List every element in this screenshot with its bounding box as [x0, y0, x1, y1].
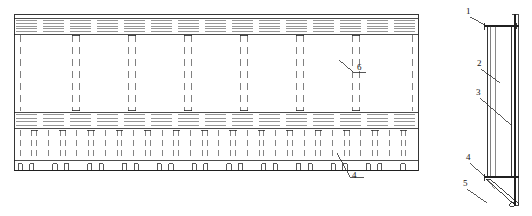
generated-geometry	[14, 14, 519, 207]
callout-labels: 1234564	[352, 6, 482, 188]
crenellation-tooth	[401, 164, 405, 171]
crenellation-tooth	[238, 164, 242, 171]
callout-label-3: 3	[476, 87, 481, 97]
crenellation-tooth	[99, 164, 103, 171]
crenellation-tooth	[227, 164, 231, 171]
crenellation-tooth	[169, 164, 173, 171]
callout-leader-3	[480, 98, 511, 125]
drawing-canvas: 1234564	[0, 0, 532, 216]
crenellation-tooth	[134, 164, 138, 171]
crenellation-tooth	[273, 164, 277, 171]
callout-label-5: 5	[463, 178, 468, 188]
callout-label-4b: 4	[352, 170, 357, 180]
crenellation-tooth	[204, 164, 208, 171]
crenellation-tooth	[30, 164, 34, 171]
elevation-outer-frame	[14, 14, 418, 170]
callout-leader-4b	[337, 153, 364, 177]
callout-label-2: 2	[477, 58, 482, 68]
crenellation-tooth	[308, 164, 312, 171]
crenellation-tooth	[88, 164, 92, 171]
crenellation-tooth	[64, 164, 68, 171]
callout-label-1: 1	[466, 6, 471, 16]
callout-label-4: 4	[466, 152, 471, 162]
crenellation-tooth	[53, 164, 57, 171]
crenellation-tooth	[18, 164, 22, 171]
crenellation-tooth	[366, 164, 370, 171]
callout-leader-5	[467, 189, 487, 203]
crenellation-tooth	[296, 164, 300, 171]
callout-leader-1	[470, 17, 498, 26]
crenellation-tooth	[122, 164, 126, 171]
callout-label-6: 6	[357, 62, 362, 72]
crenellation-tooth	[331, 164, 335, 171]
drawing-sheet: 1234564	[0, 0, 532, 216]
callout-leader-4	[470, 163, 485, 177]
crenellation-tooth	[378, 164, 382, 171]
crenellation-tooth	[262, 164, 266, 171]
crenellation-tooth	[157, 164, 161, 171]
crenellation-tooth	[192, 164, 196, 171]
